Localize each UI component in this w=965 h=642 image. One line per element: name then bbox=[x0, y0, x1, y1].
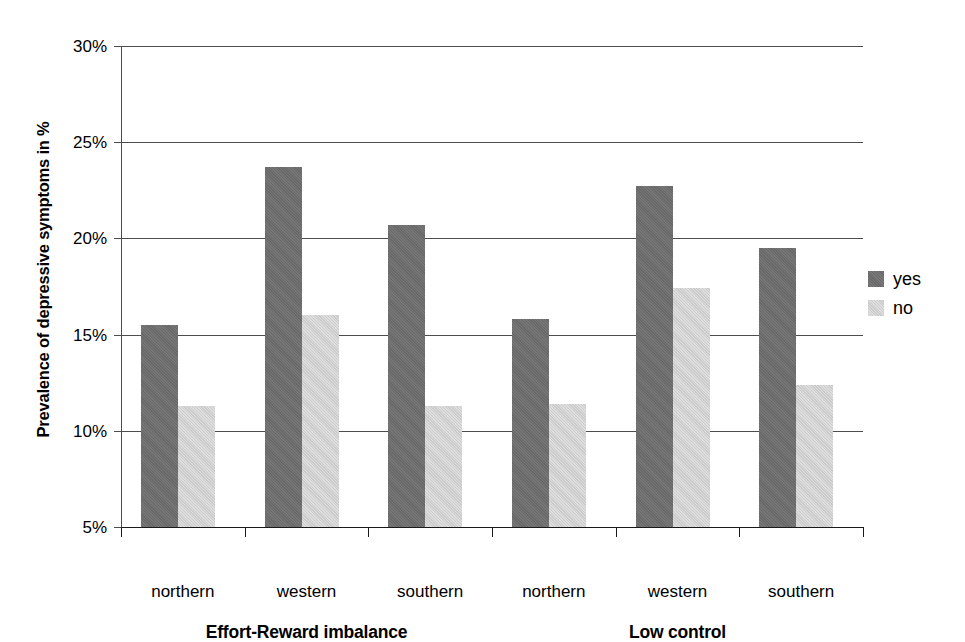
x-axis-label-3: northern bbox=[484, 583, 624, 600]
legend-label-no: no bbox=[893, 299, 913, 317]
legend-item-no: no bbox=[868, 293, 921, 322]
bar-no-southern-2 bbox=[425, 406, 462, 527]
y-gridline bbox=[121, 335, 863, 336]
y-tick-label: 20% bbox=[47, 230, 107, 247]
x-axis-label-5: southern bbox=[731, 583, 871, 600]
bar-no-southern-5 bbox=[796, 385, 833, 527]
x-tick-mark bbox=[492, 527, 493, 537]
y-tick-mark bbox=[114, 431, 121, 432]
bar-yes-northern-0 bbox=[141, 325, 178, 527]
y-gridline bbox=[121, 238, 863, 239]
x-axis-label-4: western bbox=[608, 583, 748, 600]
y-tick-label: 25% bbox=[47, 134, 107, 151]
y-tick-mark bbox=[114, 142, 121, 143]
y-axis-title: Prevalence of depressive symptoms in % bbox=[34, 45, 53, 515]
y-tick-label: 30% bbox=[47, 38, 107, 55]
x-tick-mark bbox=[863, 527, 864, 537]
panel-label-0: Effort-Reward imbalance bbox=[157, 624, 457, 642]
y-tick-mark bbox=[114, 46, 121, 47]
x-tick-mark bbox=[121, 527, 122, 537]
bar-yes-western-1 bbox=[265, 167, 302, 527]
y-tick-mark bbox=[114, 238, 121, 239]
y-gridline bbox=[121, 431, 863, 432]
legend-swatch-no bbox=[868, 300, 884, 316]
bar-no-northern-3 bbox=[549, 404, 586, 527]
panel-label-1: Low control bbox=[528, 624, 828, 642]
legend-swatch-yes bbox=[868, 271, 884, 287]
y-tick-mark bbox=[114, 527, 121, 528]
bar-yes-southern-2 bbox=[388, 225, 425, 527]
x-axis-label-0: northern bbox=[113, 583, 253, 600]
bar-yes-southern-5 bbox=[759, 248, 796, 527]
legend-item-yes: yes bbox=[868, 264, 921, 293]
x-tick-mark bbox=[739, 527, 740, 537]
y-tick-mark bbox=[114, 335, 121, 336]
bar-yes-western-4 bbox=[636, 186, 673, 527]
bar-no-northern-0 bbox=[178, 406, 215, 527]
y-gridline bbox=[121, 142, 863, 143]
x-axis-label-1: western bbox=[237, 583, 377, 600]
bar-yes-northern-3 bbox=[512, 319, 549, 527]
y-tick-label: 15% bbox=[47, 327, 107, 344]
x-tick-mark bbox=[616, 527, 617, 537]
plot-area: 30%25%20%15%10%5%northernwesternsouthern… bbox=[121, 46, 863, 527]
y-gridline bbox=[121, 46, 863, 47]
bar-no-western-1 bbox=[302, 315, 339, 527]
x-tick-mark bbox=[368, 527, 369, 537]
y-tick-label: 5% bbox=[47, 519, 107, 536]
x-axis-label-2: southern bbox=[360, 583, 500, 600]
bar-no-western-4 bbox=[673, 288, 710, 527]
chart-legend: yesno bbox=[868, 264, 921, 322]
y-tick-label: 10% bbox=[47, 423, 107, 440]
x-tick-mark bbox=[245, 527, 246, 537]
legend-label-yes: yes bbox=[893, 270, 921, 288]
